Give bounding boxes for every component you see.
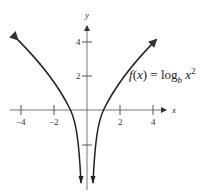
arrowhead-left-down bbox=[79, 176, 84, 184]
y-tick-label: 2 bbox=[76, 71, 81, 81]
curve-right-branch bbox=[93, 40, 156, 183]
x-tick-label: −4 bbox=[16, 117, 26, 127]
curve-left-branch bbox=[18, 40, 81, 183]
y-tick-label: 4 bbox=[76, 37, 81, 47]
graph: x y −4 −2 2 4 4 2 bbox=[0, 0, 201, 192]
x-tick-label: −2 bbox=[49, 117, 59, 127]
x-axis-label: x bbox=[171, 105, 176, 115]
function-annotation: f(x) = logb x2 bbox=[129, 66, 196, 85]
x-tick-label: 4 bbox=[151, 117, 156, 127]
x-tick-label: 2 bbox=[118, 117, 123, 127]
arrowhead-right-down bbox=[91, 176, 96, 184]
y-axis-label: y bbox=[84, 10, 89, 20]
